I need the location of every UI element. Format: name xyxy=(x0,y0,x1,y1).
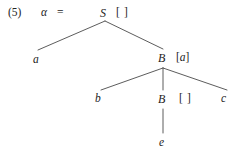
tree-edge-b1-to-c xyxy=(163,68,227,90)
syntax-tree-figure: (5) α = S [ ] a B [a] b B [ ] c e xyxy=(0,0,244,157)
tree-edges xyxy=(0,0,244,157)
tree-edge-b1-to-b xyxy=(101,68,163,90)
leaf-b: b xyxy=(95,93,101,105)
leaf-a: a xyxy=(33,54,39,66)
node-s-category: S xyxy=(100,7,106,19)
tree-edge-s-to-a xyxy=(38,21,105,50)
node-b-lower-category: B xyxy=(158,93,165,105)
bracket-close-upper: ] xyxy=(186,51,190,63)
leaf-e: e xyxy=(159,137,164,149)
node-b-upper-brackets: [a] xyxy=(176,52,189,64)
tree-edge-s-to-b1 xyxy=(105,21,163,49)
node-b-upper-category: B xyxy=(158,52,165,64)
leaf-c: c xyxy=(221,93,226,105)
equals-symbol: = xyxy=(57,7,64,19)
node-s-brackets: [ ] xyxy=(116,7,128,19)
alpha-symbol: α xyxy=(41,7,47,19)
node-b-lower-brackets: [ ] xyxy=(179,93,191,105)
example-number: (5) xyxy=(8,7,21,19)
